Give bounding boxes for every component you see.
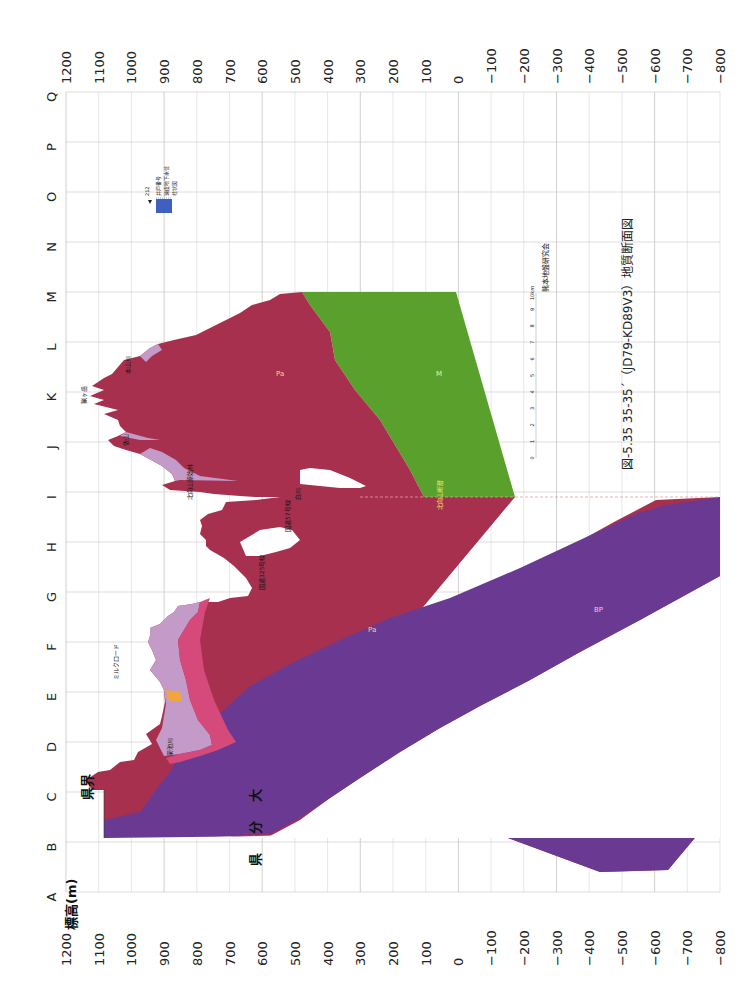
label-oita-3: 県: [248, 853, 263, 866]
column-letter: J: [44, 445, 59, 450]
column-letter: Q: [44, 92, 59, 102]
column-letters: QPONMLKJIHGFEDCBA: [44, 92, 59, 902]
legend: 212 井戸番号 速度地下水位 柱状図: [144, 166, 178, 213]
elevation-tick-label: 600: [255, 941, 270, 966]
elevation-tick-label: −600: [648, 930, 663, 966]
elevation-tick-label: 900: [157, 941, 172, 966]
figure-title: 図-5.35 35-35´（JD79-KD89V3）地質断面図: [620, 218, 635, 470]
label-kenkai: 県界: [80, 774, 95, 800]
column-letter: N: [44, 242, 59, 252]
label-fault-G: 国道325号線: [258, 555, 266, 590]
label-oita-1: 大: [248, 789, 263, 802]
elevation-tick-label: 1200: [59, 51, 74, 84]
label-peak-K: 猟ヶ岳: [80, 386, 88, 404]
elevation-tick-label: −800: [713, 930, 728, 966]
organization-label: 熊本地盤研究会: [541, 243, 550, 292]
elevation-tick-label: −300: [550, 48, 565, 84]
elevation-tick-label: −200: [517, 930, 532, 966]
elevation-tick-label: −700: [680, 48, 695, 84]
elevation-tick-label: 800: [190, 59, 205, 84]
scale-tick-label: 0: [529, 456, 535, 459]
label-line-H: 国道57号線: [284, 500, 292, 532]
elevation-tick-label: 100: [419, 59, 434, 84]
elevation-tick-label: 100: [419, 941, 434, 966]
column-letter: O: [44, 192, 59, 202]
scale-tick-label: 4: [529, 390, 535, 393]
unit-label-Pa-lower: Pa: [368, 626, 376, 634]
column-letter: H: [44, 542, 59, 552]
column-letter: A: [44, 892, 59, 901]
column-letter: D: [44, 742, 59, 752]
column-letter: I: [44, 495, 59, 499]
elevation-tick-label: 300: [353, 941, 368, 966]
column-letter: M: [44, 291, 59, 302]
unit-label-Pa-upper: Pa: [276, 370, 284, 378]
elevation-tick-label: 1100: [92, 51, 107, 84]
elevation-tick-label: 1100: [92, 933, 107, 966]
elevation-tick-label: 0: [451, 958, 466, 966]
label-river-L: 本山川: [124, 356, 132, 374]
elevation-tick-label: 900: [157, 59, 172, 84]
cross-section-figure: 1200110010009008007006005004003002001000…: [0, 0, 740, 998]
scale-tick-label: 8: [529, 324, 535, 327]
elevation-tick-label: −300: [550, 930, 565, 966]
column-letter: G: [44, 592, 59, 602]
elevation-tick-label: 200: [386, 941, 401, 966]
elevation-tick-label: −100: [484, 930, 499, 966]
elevation-tick-label: −800: [713, 48, 728, 84]
elevation-tick-label: 0: [451, 76, 466, 84]
scale-tick-label: 6: [529, 357, 535, 360]
column-letter: C: [44, 792, 59, 801]
unit-label-M: M: [436, 370, 442, 378]
elevation-tick-label: −100: [484, 48, 499, 84]
y-axis-label: 標高(m): [64, 879, 79, 930]
elevation-tick-label: −400: [582, 48, 597, 84]
legend-well-number: 212: [144, 186, 150, 196]
elevation-tick-label: −200: [517, 48, 532, 84]
label-river-I: 白川: [294, 488, 302, 500]
elevation-tick-label: −500: [615, 48, 630, 84]
elevation-ticks-top: 1200110010009008007006005004003002001000…: [59, 48, 728, 84]
elevation-ticks-bottom: 1200110010009008007006005004003002001000…: [59, 930, 728, 966]
elevation-tick-label: 300: [353, 59, 368, 84]
label-oita-2: 分: [248, 821, 263, 834]
elevation-tick-label: 500: [288, 941, 303, 966]
elevation-tick-label: 600: [255, 59, 270, 84]
label-bottom-I: 北向山断層: [436, 480, 444, 510]
column-letter: E: [44, 693, 59, 701]
label-river-D: 菊池川: [166, 738, 174, 756]
elevation-tick-label: 800: [190, 941, 205, 966]
elevation-tick-label: −500: [615, 930, 630, 966]
scale-tick-label: 7: [529, 341, 535, 344]
legend-swatch: [156, 199, 172, 213]
scale-tick-label: 5: [529, 374, 535, 377]
scale-bar: 012345678910km: [529, 286, 536, 460]
elevation-tick-label: −600: [648, 48, 663, 84]
column-letter: K: [44, 392, 59, 401]
scale-tick-label: 10km: [529, 286, 535, 300]
scale-tick-label: 9: [529, 308, 535, 311]
column-letter: P: [44, 143, 59, 151]
legend-item-column: 柱状図: [171, 181, 178, 196]
elevation-tick-label: 1000: [124, 51, 139, 84]
water-level-icon: [148, 200, 152, 204]
elevation-tick-label: 1200: [59, 933, 74, 966]
column-letter: B: [44, 843, 59, 852]
elevation-tick-label: 200: [386, 59, 401, 84]
elevation-tick-label: 700: [223, 59, 238, 84]
elevation-tick-label: −400: [582, 930, 597, 966]
label-mt-J: 俵山: [122, 434, 130, 446]
label-road-F: ミルクロード: [112, 644, 119, 680]
legend-item-water-level: 速度地下水位: [163, 166, 170, 196]
scale-tick-label: 2: [529, 423, 535, 426]
elevation-tick-label: 700: [223, 941, 238, 966]
legend-item-well: 井戸番号: [155, 176, 162, 196]
elevation-tick-label: 500: [288, 59, 303, 84]
column-letter: F: [44, 643, 59, 650]
elevation-tick-label: 1000: [124, 933, 139, 966]
elevation-tick-label: 400: [321, 941, 336, 966]
scale-tick-label: 3: [529, 407, 535, 410]
elevation-tick-label: 400: [321, 59, 336, 84]
elevation-tick-label: −700: [680, 930, 695, 966]
scale-tick-label: 1: [529, 440, 535, 443]
